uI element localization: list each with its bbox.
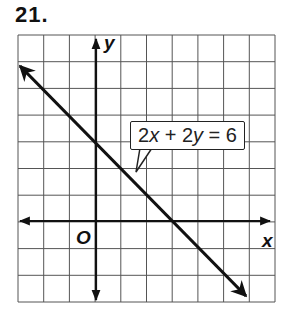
- origin-label: O: [76, 227, 91, 249]
- var-x: x: [149, 124, 159, 146]
- rhs: = 6: [203, 124, 237, 146]
- equation-label: 2x + 2y = 6: [130, 121, 245, 150]
- plus-b: + 2: [159, 124, 193, 146]
- grid: [18, 35, 275, 302]
- coef-a: 2: [138, 124, 149, 146]
- y-axis-label: y: [104, 32, 115, 54]
- graph-line: [20, 66, 246, 296]
- x-axis-label: x: [262, 230, 273, 252]
- var-y: y: [193, 124, 203, 146]
- coordinate-graph: [0, 0, 286, 318]
